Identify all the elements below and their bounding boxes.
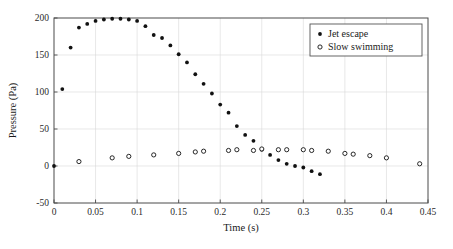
- series-jet-escape: [52, 17, 322, 176]
- data-point: [235, 124, 239, 128]
- data-point: [343, 151, 347, 155]
- data-point: [193, 150, 197, 154]
- data-point: [144, 24, 148, 28]
- data-point: [152, 153, 156, 157]
- data-point: [384, 156, 388, 160]
- data-point: [218, 103, 222, 107]
- data-point: [177, 151, 181, 155]
- data-point: [102, 18, 106, 22]
- data-point: [318, 172, 322, 176]
- legend-label: Slow swimming: [328, 41, 393, 52]
- data-point: [135, 19, 139, 23]
- data-point: [268, 153, 272, 157]
- data-point: [168, 43, 172, 47]
- data-point: [177, 52, 181, 56]
- data-point: [243, 133, 247, 137]
- data-point: [160, 36, 164, 40]
- data-point: [202, 149, 206, 153]
- data-point: [235, 148, 239, 152]
- x-tick-label: 0.2: [214, 207, 226, 217]
- data-point: [260, 147, 264, 151]
- data-point: [77, 159, 81, 163]
- data-point: [310, 148, 314, 152]
- data-point: [69, 46, 73, 50]
- x-tick-label: 0: [52, 207, 57, 217]
- data-point: [202, 82, 206, 86]
- data-point: [276, 148, 280, 152]
- x-tick-label: 0.15: [170, 207, 187, 217]
- x-tick-label: 0.1: [131, 207, 143, 217]
- y-tick-label: 200: [35, 13, 50, 23]
- legend-marker-open-circle: [318, 45, 322, 49]
- x-tick-label: 0.25: [253, 207, 270, 217]
- y-axis-title: Pressure (Pa): [7, 82, 19, 138]
- data-point: [152, 33, 156, 37]
- data-point: [251, 148, 255, 152]
- x-tick-label: 0.4: [381, 207, 393, 217]
- data-point: [351, 152, 355, 156]
- data-point: [52, 164, 56, 168]
- data-point: [210, 92, 214, 96]
- data-point: [226, 148, 230, 152]
- y-tick-label: 0: [44, 161, 49, 171]
- data-point: [293, 164, 297, 168]
- y-tick-label: 100: [35, 87, 50, 97]
- data-point: [418, 162, 422, 166]
- data-point: [368, 154, 372, 158]
- data-point: [193, 72, 197, 76]
- data-point: [310, 169, 314, 173]
- data-point: [119, 17, 123, 21]
- data-point: [185, 61, 189, 65]
- x-tick-label: 0.35: [337, 207, 354, 217]
- chart-legend: Jet escapeSlow swimming: [310, 24, 422, 56]
- x-tick-label: 0.05: [87, 207, 104, 217]
- data-point: [252, 139, 256, 143]
- data-point: [277, 158, 281, 162]
- data-point: [94, 19, 98, 23]
- x-axis-title: Time (s): [223, 222, 259, 234]
- y-tick-label: -50: [36, 198, 49, 208]
- data-point: [301, 148, 305, 152]
- legend-marker-filled-circle: [318, 32, 322, 36]
- data-point: [85, 22, 89, 26]
- chart-figure: 00.050.10.150.20.250.30.350.40.45-500501…: [0, 0, 453, 249]
- data-point: [285, 148, 289, 152]
- y-tick-label: 150: [35, 50, 50, 60]
- data-point: [77, 26, 81, 30]
- data-point: [227, 111, 231, 115]
- x-tick-label: 0.45: [420, 207, 437, 217]
- data-point: [127, 154, 131, 158]
- data-point: [127, 18, 131, 22]
- y-tick-label: 50: [40, 124, 50, 134]
- data-point: [285, 162, 289, 166]
- x-tick-label: 0.3: [297, 207, 309, 217]
- legend-label: Jet escape: [328, 28, 369, 39]
- data-point: [110, 156, 114, 160]
- data-point: [326, 149, 330, 153]
- data-point: [60, 87, 64, 91]
- series-slow-swimming: [77, 147, 422, 166]
- data-point: [110, 17, 114, 21]
- scatter-plot: 00.050.10.150.20.250.30.350.40.45-500501…: [0, 0, 453, 249]
- data-point: [301, 166, 305, 170]
